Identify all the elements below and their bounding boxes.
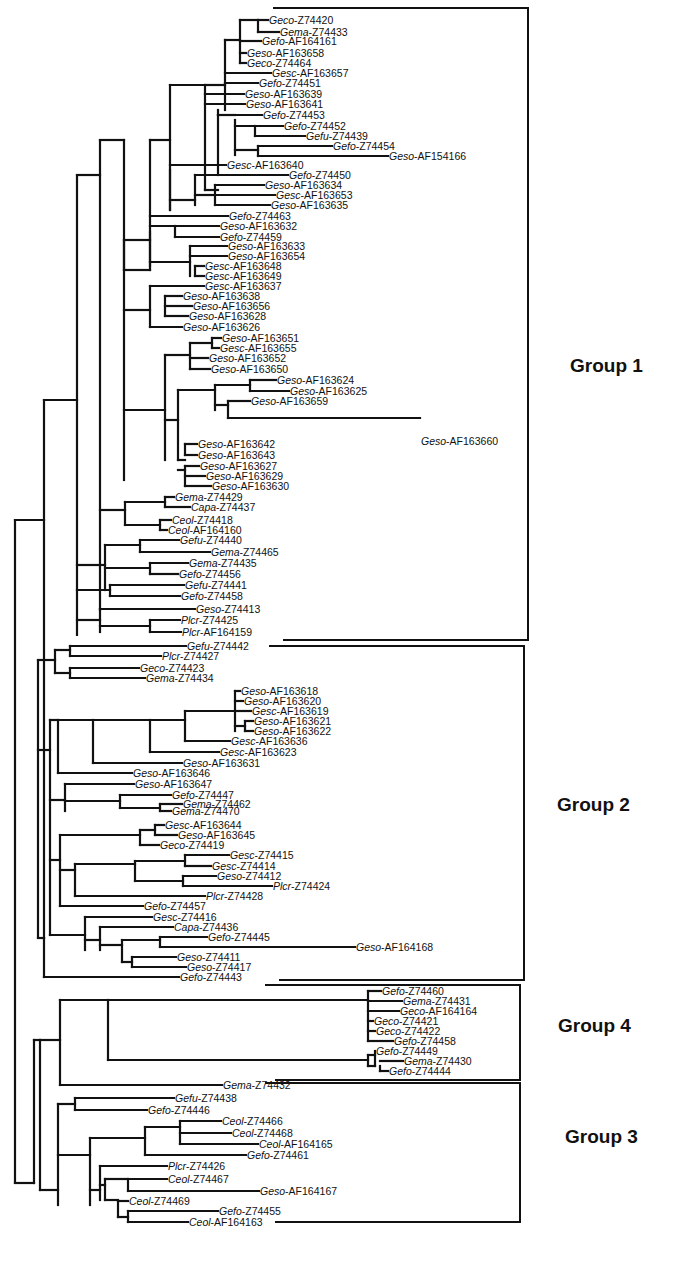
genus-abbrev: Geso — [217, 870, 242, 882]
genus-abbrev: Geco — [269, 14, 294, 26]
accession-id: -Z74428 — [224, 890, 263, 902]
genus-abbrev: Geso — [389, 150, 414, 162]
genus-abbrev: Gesc — [227, 159, 252, 171]
group-label: Group 4 — [558, 1015, 631, 1037]
accession-id: -Z74458 — [204, 590, 243, 602]
accession-id: -Z74437 — [216, 501, 255, 513]
leaf-label: Geso-AF163659 — [251, 395, 328, 407]
accession-id: -Z74446 — [171, 1104, 210, 1116]
leaf-label: Gefo-AF164161 — [262, 35, 337, 47]
genus-abbrev: Gefo — [389, 1065, 412, 1077]
leaf-label: Gefo-Z74446 — [148, 1104, 210, 1116]
leaf-label: Gema-Z74432 — [223, 1079, 291, 1091]
leaf-labels: Geco-Z74420Gema-Z74433Gefo-AF164161Geso-… — [129, 14, 498, 1228]
leaf-label: Gema-Z74470 — [172, 805, 240, 817]
accession-id: -AF163630 — [237, 480, 289, 492]
leaf-label: Ceol-Z74467 — [168, 1173, 229, 1185]
accession-id: -AF154166 — [414, 150, 466, 162]
leaf-label: Gefo-Z74444 — [389, 1065, 451, 1077]
accession-id: -Z74425 — [199, 614, 238, 626]
leaf-label: Geso-AF164168 — [356, 941, 433, 953]
accession-id: -Z74424 — [291, 880, 330, 892]
accession-id: -Z74427 — [180, 650, 219, 662]
genus-abbrev: Gefo — [376, 1045, 399, 1057]
leaf-label: Gema-Z74434 — [146, 672, 214, 684]
genus-abbrev: Ceol — [189, 1216, 211, 1228]
leaf-label: Gefo-Z74445 — [208, 931, 270, 943]
leaf-label: Plcr-Z74427 — [162, 650, 219, 662]
accession-id: -Z74467 — [190, 1173, 229, 1185]
leaf-label: Ceol-Z74466 — [222, 1115, 283, 1127]
genus-abbrev: Plcr — [181, 614, 200, 626]
genus-abbrev: Geso — [183, 321, 208, 333]
accession-id: -Z74438 — [198, 1092, 237, 1104]
leaf-label: Plcr-AF164159 — [182, 626, 252, 638]
genus-abbrev: Geco — [160, 839, 185, 851]
genus-abbrev: Gefo — [382, 985, 405, 997]
leaf-label: Geso-AF163660 — [421, 435, 498, 447]
genus-abbrev: Gefo — [180, 971, 203, 983]
genus-abbrev: Plcr — [273, 880, 292, 892]
genus-abbrev: Gefo — [263, 109, 286, 121]
leaf-label: Gefo-Z74443 — [180, 971, 242, 983]
leaf-label: Plcr-Z74426 — [168, 1160, 225, 1172]
accession-id: -AF164159 — [200, 626, 252, 638]
leaf-label: Geso-AF154166 — [389, 150, 466, 162]
accession-id: -AF163659 — [276, 395, 328, 407]
leaf-label: Gefo-Z74454 — [333, 140, 395, 152]
genus-abbrev: Gefo — [333, 140, 356, 152]
accession-id: -Z74432 — [252, 1079, 291, 1091]
genus-abbrev: Plcr — [168, 1160, 187, 1172]
leaf-label: Plcr-Z74428 — [206, 890, 263, 902]
accession-id: -AF163631 — [208, 757, 260, 769]
leaf-label: Geso-Z74412 — [217, 870, 281, 882]
genus-abbrev: Capa — [191, 501, 216, 513]
accession-id: -AF164161 — [285, 35, 337, 47]
accession-id: -AF163635 — [296, 199, 348, 211]
accession-id: -Z74434 — [175, 672, 214, 684]
genus-abbrev: Gema — [146, 672, 175, 684]
accession-id: -Z74445 — [231, 931, 270, 943]
accession-id: -Z74466 — [244, 1115, 283, 1127]
genus-abbrev: Capa — [174, 921, 199, 933]
genus-abbrev: Plcr — [162, 650, 181, 662]
genus-abbrev: Gefo — [148, 1104, 171, 1116]
genus-abbrev: Geso — [356, 941, 381, 953]
leaf-label: Gefo-Z74458 — [181, 590, 243, 602]
genus-abbrev: Plcr — [206, 890, 225, 902]
accession-id: -Z74443 — [203, 971, 242, 983]
leaf-label: Plcr-Z74425 — [181, 614, 238, 626]
accession-id: -Z74420 — [294, 14, 333, 26]
genus-abbrev: Ceol — [168, 1173, 190, 1185]
genus-abbrev: Ceol — [129, 1195, 151, 1207]
accession-id: -Z74444 — [412, 1065, 451, 1077]
leaf-label: Geco-Z74419 — [160, 839, 224, 851]
accession-id: -AF164168 — [381, 941, 433, 953]
genus-abbrev: Geso — [260, 1185, 285, 1197]
genus-abbrev: Gefo — [181, 590, 204, 602]
leaf-label: Geso-AF164167 — [260, 1185, 337, 1197]
accession-id: -Z74469 — [151, 1195, 190, 1207]
leaf-label: Capa-Z74437 — [191, 501, 255, 513]
accession-id: -Z74419 — [185, 839, 224, 851]
accession-id: -Z74440 — [203, 534, 242, 546]
genus-abbrev: Ceol — [232, 1127, 254, 1139]
genus-abbrev: Gefo — [247, 1149, 270, 1161]
genus-abbrev: Gema — [223, 1079, 252, 1091]
genus-abbrev: Geso — [421, 435, 446, 447]
accession-id: -Z74426 — [186, 1160, 225, 1172]
leaf-label: Gefo-Z74461 — [247, 1149, 309, 1161]
genus-abbrev: Gefu — [175, 1092, 198, 1104]
accession-id: -Z74470 — [201, 805, 240, 817]
genus-abbrev: Geco — [247, 57, 272, 69]
genus-abbrev: Gefo — [262, 35, 285, 47]
leaf-label: Geco-Z74420 — [269, 14, 333, 26]
accession-id: -AF164163 — [211, 1216, 263, 1228]
genus-abbrev: Geso — [211, 363, 236, 375]
accession-id: -AF163660 — [446, 435, 498, 447]
genus-abbrev: Ceol — [222, 1115, 244, 1127]
leaf-label: Gefu-Z74438 — [175, 1092, 237, 1104]
genus-abbrev: Gefo — [284, 120, 307, 132]
genus-abbrev: Gefo — [208, 931, 231, 943]
group-label: Group 2 — [557, 794, 630, 816]
